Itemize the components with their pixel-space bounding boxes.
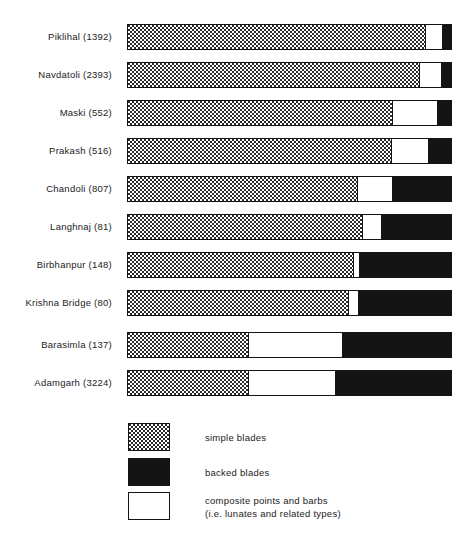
segment-simple-blades bbox=[128, 291, 348, 315]
table-row: Langhnaj (81) bbox=[0, 214, 468, 240]
table-row: Piklihal (1392) bbox=[0, 24, 468, 50]
table-row: Adamgarh (3224) bbox=[0, 370, 468, 396]
table-row: Barasimla (137) bbox=[0, 332, 468, 358]
row-label-prakash: Prakash (516) bbox=[0, 145, 112, 157]
segment-simple-blades bbox=[128, 371, 248, 395]
segment-composite-points bbox=[425, 25, 442, 49]
segment-composite-points bbox=[362, 215, 381, 239]
segment-simple-blades bbox=[128, 215, 362, 239]
legend-label-composite-line2: (i.e. lunates and related types) bbox=[205, 507, 455, 520]
legend-item-composite-points: composite points and barbs (i.e. lunates… bbox=[0, 492, 468, 520]
table-row: Birbhanpur (148) bbox=[0, 252, 468, 278]
bar-barasimla bbox=[127, 332, 452, 358]
row-label-birbhanpur: Birbhanpur (148) bbox=[0, 259, 112, 271]
row-label-krishna-bridge: Krishna Bridge (80) bbox=[0, 297, 112, 309]
row-label-navdatoli: Navdatoli (2393) bbox=[0, 69, 112, 81]
row-label-chandoli: Chandoli (807) bbox=[0, 183, 112, 195]
bar-navdatoli bbox=[127, 62, 452, 88]
segment-composite-points bbox=[392, 101, 437, 125]
segment-composite-points bbox=[248, 333, 342, 357]
segment-composite-points bbox=[419, 63, 441, 87]
segment-backed-blades bbox=[441, 63, 451, 87]
legend-swatch-composite-points bbox=[128, 492, 170, 520]
bar-piklihal bbox=[127, 24, 452, 50]
bar-adamgarh bbox=[127, 370, 452, 396]
segment-simple-blades bbox=[128, 139, 391, 163]
bar-langhnaj bbox=[127, 214, 452, 240]
bar-maski bbox=[127, 100, 452, 126]
segment-simple-blades bbox=[128, 253, 353, 277]
table-row: Prakash (516) bbox=[0, 138, 468, 164]
legend-item-backed-blades: backed blades bbox=[0, 458, 468, 486]
segment-backed-blades bbox=[381, 215, 451, 239]
table-row: Maski (552) bbox=[0, 100, 468, 126]
segment-simple-blades bbox=[128, 63, 419, 87]
segment-composite-points bbox=[391, 139, 428, 163]
chart-legend: simple blades backed blades composite po… bbox=[0, 418, 468, 550]
segment-composite-points bbox=[357, 177, 392, 201]
bar-chandoli bbox=[127, 176, 452, 202]
row-label-piklihal: Piklihal (1392) bbox=[0, 31, 112, 43]
legend-label-backed-blades: backed blades bbox=[205, 466, 455, 479]
segment-simple-blades bbox=[128, 333, 248, 357]
legend-item-simple-blades: simple blades bbox=[0, 423, 468, 451]
segment-backed-blades bbox=[442, 25, 451, 49]
bar-birbhanpur bbox=[127, 252, 452, 278]
segment-backed-blades bbox=[358, 291, 451, 315]
legend-label-composite-points: composite points and barbs (i.e. lunates… bbox=[205, 494, 455, 520]
legend-label-simple-blades: simple blades bbox=[205, 431, 455, 444]
segment-simple-blades bbox=[128, 101, 392, 125]
legend-label-composite-line1: composite points and barbs bbox=[205, 495, 328, 506]
row-label-adamgarh: Adamgarh (3224) bbox=[0, 377, 112, 389]
segment-simple-blades bbox=[128, 25, 425, 49]
legend-swatch-simple-blades bbox=[128, 423, 170, 451]
bar-prakash bbox=[127, 138, 452, 164]
segment-simple-blades bbox=[128, 177, 357, 201]
segment-backed-blades bbox=[428, 139, 451, 163]
row-label-barasimla: Barasimla (137) bbox=[0, 339, 112, 351]
bar-krishna-bridge bbox=[127, 290, 452, 316]
table-row: Krishna Bridge (80) bbox=[0, 290, 468, 316]
stacked-bar-chart: Piklihal (1392) Navdatoli (2393) Maski (… bbox=[0, 0, 468, 550]
segment-backed-blades bbox=[359, 253, 451, 277]
segment-composite-points bbox=[348, 291, 358, 315]
segment-backed-blades bbox=[335, 371, 451, 395]
table-row: Navdatoli (2393) bbox=[0, 62, 468, 88]
row-label-langhnaj: Langhnaj (81) bbox=[0, 221, 112, 233]
table-row: Chandoli (807) bbox=[0, 176, 468, 202]
row-label-maski: Maski (552) bbox=[0, 107, 112, 119]
segment-composite-points bbox=[248, 371, 335, 395]
segment-backed-blades bbox=[342, 333, 451, 357]
segment-backed-blades bbox=[437, 101, 451, 125]
segment-backed-blades bbox=[392, 177, 451, 201]
legend-swatch-backed-blades bbox=[128, 458, 170, 486]
